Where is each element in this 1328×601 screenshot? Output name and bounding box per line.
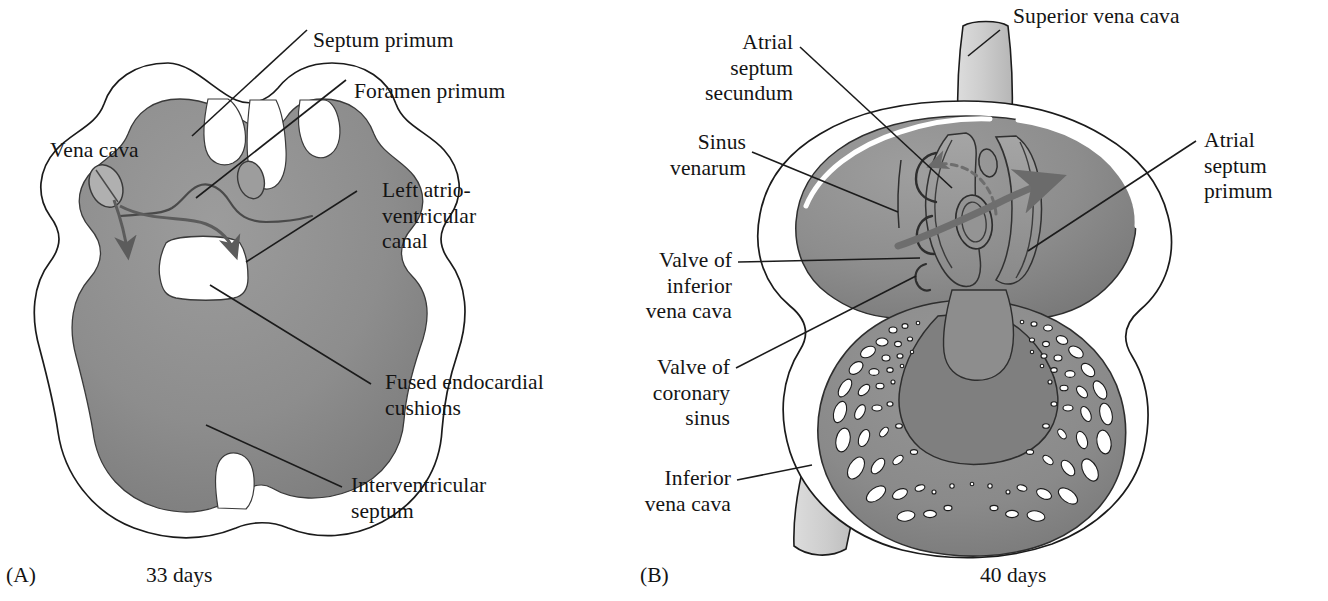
panel-a-artwork [34, 30, 465, 538]
label-superior-vena-cava: Superior vena cava [1013, 4, 1180, 30]
label-interventricular-septum: Interventricular septum [351, 473, 486, 524]
label-valve-of-inferior-vena-cava: Valve of inferior vena cava [600, 248, 732, 325]
label-sinus-venarum: Sinus venarum [600, 130, 746, 181]
label-fused-endocardial-cushions: Fused endocardial cushions [385, 370, 544, 421]
label-vena-cava: Vena cava [50, 138, 139, 164]
panel-a-caption: 33 days [146, 563, 212, 588]
label-atrial-septum-primum: Atrial septum primum [1204, 128, 1273, 205]
panel-b-tag: (B) [640, 563, 669, 588]
panel-b-caption: 40 days [980, 563, 1046, 588]
figure-root: Vena cava Septum primum Foramen primum L… [0, 0, 1328, 601]
panel-b-interventricular-septum [943, 290, 1013, 380]
label-inferior-vena-cava: Inferior vena cava [600, 466, 731, 517]
label-atrial-septum-secundum: Atrial septum secundum [600, 30, 793, 107]
panel-a-foramen-primum-window [159, 236, 248, 300]
panel-a-tag: (A) [6, 563, 36, 588]
label-valve-of-coronary-sinus: Valve of coronary sinus [600, 355, 730, 432]
panel-a-interventricular-septum [215, 453, 254, 509]
label-foramen-primum: Foramen primum [354, 79, 505, 105]
label-left-atrioventricular-canal: Left atrio- ventricular canal [382, 178, 476, 255]
panel-b-artwork [736, 22, 1196, 558]
label-septum-primum: Septum primum [313, 28, 453, 54]
